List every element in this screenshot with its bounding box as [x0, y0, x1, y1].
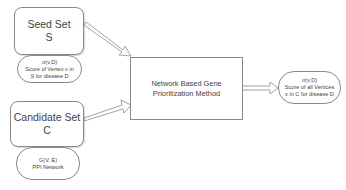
seed-set-symbol: S: [45, 31, 52, 44]
seed-score-oval: σ(v,D) Score of Vertex v in S for diseas…: [17, 55, 82, 83]
arrow-method-to-output: [242, 82, 278, 94]
ppi-network-label: PPI Network: [32, 164, 63, 171]
seed-set-title: Seed Set: [27, 18, 70, 31]
arrow-candidate-to-method: [84, 100, 131, 121]
output-formula: σ(v,D): [302, 77, 317, 84]
ppi-network-oval: G(V, E) PPI Network: [16, 147, 80, 180]
method-line2: Prioritization Method: [153, 89, 220, 99]
ppi-network-formula: G(V, E): [39, 157, 57, 164]
output-line1: Score of all Vertices: [285, 84, 334, 91]
candidate-set-box: Candidate Set C: [10, 101, 84, 147]
seed-set-box: Seed Set S: [14, 7, 84, 55]
candidate-set-symbol: C: [43, 124, 51, 137]
arrow-seed-to-method: [84, 22, 131, 56]
seed-score-line2: S for disease D: [30, 73, 68, 80]
seed-score-formula: σ(v,D): [42, 59, 57, 66]
output-score-oval: σ(v,D) Score of all Vertices v in C for …: [278, 71, 341, 104]
method-line1: Network Based Gene: [151, 79, 221, 89]
method-box: Network Based Gene Prioritization Method: [130, 57, 243, 120]
output-line2: v in C for disease D: [285, 91, 334, 98]
seed-score-line1: Score of Vertex v in: [25, 66, 74, 73]
candidate-set-title: Candidate Set: [14, 111, 81, 124]
